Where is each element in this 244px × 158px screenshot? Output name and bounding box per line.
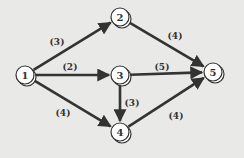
node-5: 5 xyxy=(204,63,224,83)
node-1: 1 xyxy=(16,66,36,86)
network-diagram: (3)(2)(4)(4)(5)(3)(4) 12345 xyxy=(0,0,244,158)
node-2: 2 xyxy=(111,8,131,28)
edge-weight-label: (4) xyxy=(168,31,183,41)
edge-3-5 xyxy=(130,72,202,74)
edge-2-5 xyxy=(129,22,204,66)
node-label: 2 xyxy=(117,12,124,23)
edge-weight-label: (3) xyxy=(125,98,140,108)
node-4: 4 xyxy=(111,123,131,143)
edge-4-5 xyxy=(128,78,203,127)
edge-weight-label: (2) xyxy=(63,62,78,72)
node-label: 4 xyxy=(117,127,124,138)
node-label: 1 xyxy=(22,70,29,81)
edge-weight-label: (3) xyxy=(50,37,65,47)
node-label: 3 xyxy=(117,70,124,81)
edge-1-4 xyxy=(34,80,111,126)
node-3: 3 xyxy=(111,66,131,86)
node-label: 5 xyxy=(210,67,217,78)
edge-weight-label: (4) xyxy=(56,108,71,118)
edge-weight-label: (4) xyxy=(169,111,184,121)
edge-weight-label: (5) xyxy=(155,62,170,72)
